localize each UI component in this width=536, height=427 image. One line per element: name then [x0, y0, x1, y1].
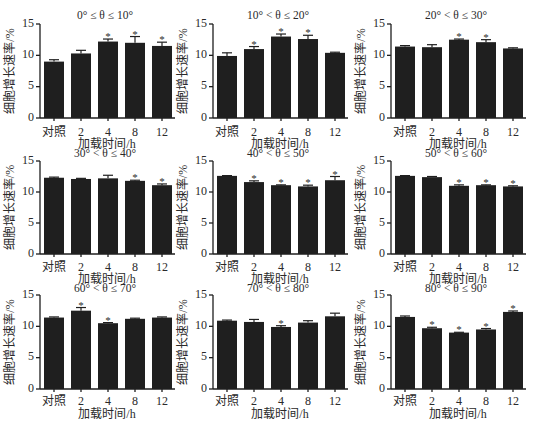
bar [44, 62, 64, 118]
bar [217, 176, 237, 254]
significance-asterisk: * [105, 30, 111, 42]
y-tick-label: 15 [195, 16, 207, 30]
chart-title: 80° < θ ≤ 90° [425, 282, 487, 294]
bar [503, 186, 523, 254]
chart-title: 20° < θ ≤ 30° [425, 9, 487, 21]
bar [325, 180, 345, 254]
bar [422, 177, 442, 254]
significance-asterisk: * [278, 176, 284, 188]
bar [422, 47, 442, 118]
bar [476, 42, 496, 118]
bar [98, 178, 118, 254]
chart-panel: 10° < θ ≤ 20°051015细胞增长速率/%对照*2*4*812加载时… [175, 9, 348, 151]
bar [244, 49, 264, 118]
y-tick-label: 5 [379, 349, 385, 363]
bar [71, 179, 91, 254]
chart-panel: 20° < θ ≤ 30°051015细胞增长速率/%对照2*4*812加载时间… [353, 9, 526, 151]
y-tick-label: 15 [373, 16, 385, 30]
bar [71, 311, 91, 389]
y-tick-label: 0 [201, 110, 207, 124]
y-tick-label: 15 [373, 153, 385, 167]
bar [325, 316, 345, 389]
bar [125, 319, 145, 389]
y-axis-label: 细胞增长速率/% [175, 299, 190, 384]
bar [152, 185, 172, 254]
bar [244, 182, 264, 254]
y-tick-label: 0 [379, 110, 385, 124]
chart-title: 50° < θ ≤ 60° [425, 147, 487, 159]
y-tick-label: 10 [22, 47, 34, 61]
chart-panel: 60° < θ ≤ 70°051015细胞增长速率/%对照*2*4812加载时间… [2, 282, 175, 421]
y-tick-label: 5 [379, 215, 385, 229]
bar [152, 46, 172, 118]
y-tick-label: 15 [22, 153, 34, 167]
bar [422, 328, 442, 389]
significance-asterisk: * [332, 168, 338, 180]
significance-asterisk: * [105, 314, 111, 326]
x-tick-label: 对照 [393, 394, 417, 408]
chart-panel: 50° < θ ≤ 60°051015细胞增长速率/%对照2*4*8*12加载时… [353, 147, 526, 286]
x-tick-label: 4 [456, 394, 462, 408]
bar [125, 43, 145, 118]
x-tick-label: 4 [105, 394, 111, 408]
bar [395, 47, 415, 118]
y-tick-label: 5 [201, 349, 207, 363]
y-axis-label: 细胞增长速率/% [353, 299, 368, 384]
y-tick-label: 0 [201, 381, 207, 395]
figure-grid: 0° ≤ θ ≤ 10°051015细胞增长速率/%对照2*4*8*12加载时间… [0, 0, 536, 427]
x-axis-label: 加载时间/h [251, 407, 308, 421]
y-axis-label: 细胞增长速率/% [353, 165, 368, 250]
x-axis-label: 加载时间/h [78, 407, 135, 421]
x-tick-label: 对照 [393, 125, 417, 139]
bar [98, 323, 118, 389]
significance-asterisk: * [305, 176, 311, 188]
x-tick-label: 4 [278, 394, 284, 408]
bar [44, 178, 64, 254]
y-tick-label: 5 [201, 215, 207, 229]
bar [298, 186, 318, 254]
significance-asterisk: * [456, 30, 462, 42]
x-tick-label: 对照 [215, 125, 239, 139]
y-tick-label: 0 [28, 246, 34, 260]
x-tick-label: 对照 [42, 394, 66, 408]
chart-title: 30° < θ ≤ 40° [74, 147, 136, 159]
bar [325, 53, 345, 118]
bar [449, 40, 469, 118]
bar [244, 322, 264, 389]
bar [503, 48, 523, 118]
significance-asterisk: * [278, 25, 284, 37]
y-tick-label: 0 [28, 110, 34, 124]
chart-panel: 0° ≤ θ ≤ 10°051015细胞增长速率/%对照2*4*8*12加载时间… [2, 9, 175, 151]
y-axis-label: 细胞增长速率/% [2, 299, 17, 384]
significance-asterisk: * [305, 26, 311, 38]
chart-title: 60° < θ ≤ 70° [74, 282, 136, 294]
x-tick-label: 12 [329, 394, 341, 408]
y-axis-label: 细胞增长速率/% [2, 165, 17, 250]
significance-asterisk: * [483, 176, 489, 188]
y-tick-label: 10 [195, 318, 207, 332]
y-tick-label: 0 [28, 381, 34, 395]
bar [98, 42, 118, 118]
x-tick-label: 对照 [393, 260, 417, 274]
significance-asterisk: * [132, 28, 138, 40]
y-tick-label: 10 [373, 47, 385, 61]
y-tick-label: 10 [195, 184, 207, 198]
significance-asterisk: * [251, 172, 257, 184]
x-tick-label: 12 [507, 125, 519, 139]
y-axis-label: 细胞增长速率/% [175, 165, 190, 250]
bar [503, 312, 523, 389]
y-axis-label: 细胞增长速率/% [353, 28, 368, 113]
bar [298, 323, 318, 389]
bar [449, 333, 469, 389]
bar [152, 318, 172, 389]
y-tick-label: 0 [201, 246, 207, 260]
chart-title: 0° ≤ θ ≤ 10° [77, 9, 133, 21]
significance-asterisk: * [483, 31, 489, 43]
chart-title: 10° < θ ≤ 20° [247, 9, 309, 21]
bar [476, 185, 496, 254]
significance-asterisk: * [159, 175, 165, 187]
y-tick-label: 5 [379, 78, 385, 92]
bar [44, 318, 64, 389]
y-tick-label: 15 [195, 287, 207, 301]
bar [395, 176, 415, 254]
